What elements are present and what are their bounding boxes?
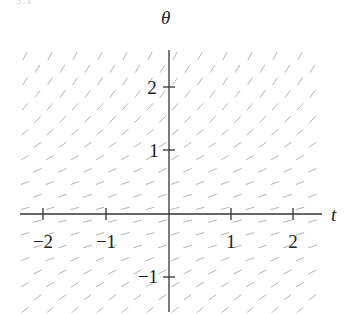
slope-segment — [221, 282, 229, 287]
slope-segment — [71, 155, 79, 159]
slope-segment — [133, 245, 142, 248]
slope-segment — [108, 194, 117, 197]
slope-segment — [158, 245, 167, 248]
slope-segment — [96, 282, 104, 287]
slope-segment — [58, 194, 67, 197]
t-tick-label-1: 1 — [226, 231, 236, 253]
slope-segment — [108, 168, 116, 172]
slope-segment — [123, 52, 127, 60]
slope-segment — [148, 52, 152, 60]
slope-segment — [134, 295, 141, 300]
slope-segment — [135, 65, 140, 73]
slope-segment — [310, 65, 315, 73]
slope-segment — [297, 103, 303, 110]
slope-field-diagram: 3.1 θ t −2 −1 1 2 2 1 −1 — [0, 0, 346, 314]
slope-segment — [259, 116, 265, 122]
slope-segment — [246, 155, 254, 159]
slope-segment — [146, 207, 155, 209]
slope-segment — [98, 78, 103, 85]
slope-segment — [285, 65, 290, 73]
slope-segment — [109, 270, 117, 274]
slope-segment — [133, 220, 142, 222]
slope-segment — [196, 233, 205, 236]
slope-segment — [260, 91, 265, 98]
slope-segment — [209, 142, 216, 147]
slope-segment — [122, 103, 128, 110]
slope-segment — [246, 233, 255, 236]
axes — [20, 50, 322, 312]
slope-segment — [33, 194, 42, 197]
slope-segment — [47, 103, 53, 110]
slope-segment — [59, 295, 66, 300]
slope-segment — [33, 220, 42, 222]
slope-segment — [21, 207, 30, 209]
slope-segment — [22, 129, 29, 135]
slope-segment — [221, 155, 229, 159]
slope-segment — [210, 65, 215, 73]
slope-segment — [246, 207, 255, 209]
slope-segment — [221, 207, 230, 209]
slope-segment — [121, 155, 129, 159]
slope-segment — [298, 52, 302, 60]
slope-segment — [234, 116, 240, 122]
slope-segment — [171, 182, 179, 185]
slope-segment — [59, 116, 65, 122]
slope-segment — [183, 194, 192, 197]
slope-segment — [97, 129, 104, 135]
slope-segment — [160, 65, 165, 73]
slope-segment — [285, 91, 290, 98]
slope-segment — [21, 155, 29, 159]
slope-segment — [272, 103, 278, 110]
slope-segment — [259, 270, 267, 274]
slope-segment — [183, 220, 192, 222]
slope-segment — [235, 91, 240, 98]
slope-segment — [210, 91, 215, 98]
slope-segment — [159, 116, 165, 122]
slope-segment — [121, 258, 129, 261]
slope-segment — [185, 65, 190, 73]
slope-segment — [309, 270, 317, 274]
slope-segment — [308, 194, 317, 197]
slope-segment — [198, 52, 202, 60]
slope-segment — [222, 129, 229, 135]
slope-segment — [34, 295, 41, 300]
slope-segment — [71, 233, 80, 236]
slope-segment — [271, 155, 279, 159]
slope-segment — [223, 52, 227, 60]
slope-segment — [173, 78, 178, 85]
slope-segment — [309, 142, 316, 147]
slope-segment — [121, 282, 129, 287]
slope-segment — [221, 182, 229, 185]
slope-segment — [22, 307, 29, 313]
slope-segment — [234, 142, 241, 147]
slope-segment — [96, 258, 104, 261]
slope-segment — [296, 207, 305, 209]
slope-segment — [21, 282, 29, 287]
slope-segment — [197, 307, 204, 313]
slope-segment — [85, 91, 90, 98]
slope-segment — [123, 78, 128, 85]
theta-tick-label-m1: −1 — [138, 266, 158, 288]
slope-segment — [159, 295, 166, 300]
slope-segment — [308, 168, 316, 172]
slope-segment — [283, 220, 292, 222]
slope-segment — [271, 282, 279, 287]
slope-segment — [196, 182, 204, 185]
slope-segment — [72, 103, 78, 110]
slope-segment — [283, 168, 291, 172]
slope-segment — [185, 91, 190, 98]
slope-segment — [98, 52, 102, 60]
slope-segment — [246, 258, 254, 261]
slope-segment — [223, 78, 228, 85]
slope-segment — [246, 182, 254, 185]
slope-segment — [247, 129, 254, 135]
slope-segment — [60, 65, 65, 73]
slope-segment — [46, 258, 54, 261]
theta-tick-label-2: 2 — [147, 77, 157, 99]
slope-segment — [271, 182, 279, 185]
slope-segment — [134, 116, 140, 122]
slope-segment — [208, 245, 217, 248]
slope-segment — [310, 91, 315, 98]
slope-segment — [21, 258, 29, 261]
slope-segment — [84, 116, 90, 122]
